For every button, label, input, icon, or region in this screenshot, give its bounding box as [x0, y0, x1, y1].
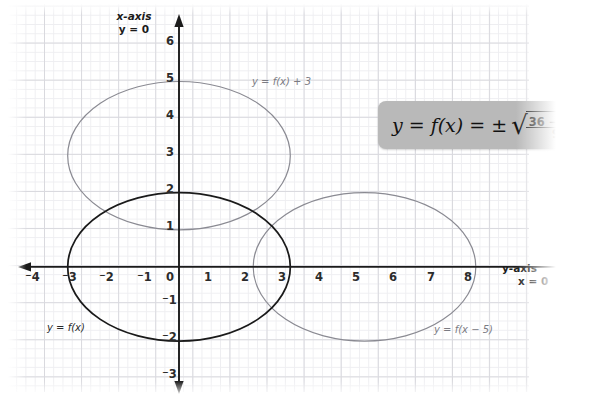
page-edge-fade-left: [0, 0, 26, 407]
x-tick-label: 3: [278, 270, 286, 284]
x-tick-label: −2: [99, 270, 114, 284]
y-tick-label: 4: [166, 108, 174, 122]
x-tick-label: −3: [62, 270, 77, 284]
graph-figure: x-axis y = 0 y-axis x = 0 −y = f(x)4 −3 …: [0, 0, 611, 407]
y-tick-label: −1: [162, 293, 177, 307]
y-tick-label: −3: [162, 367, 177, 381]
x-tick-label: 7: [427, 270, 435, 284]
y-tick-label: 6: [166, 34, 174, 48]
y-tick-label: 1: [166, 219, 174, 233]
page-edge-fade-right: [516, 0, 611, 407]
x-tick-label: −y = f(x)4: [25, 270, 40, 284]
x-tick-label: 8: [464, 270, 472, 284]
curve-label-f-of-x-plus-3: y = f(x) + 3: [252, 76, 311, 87]
curve-label-f-of-x-minus-5: y = f(x − 5): [434, 324, 493, 335]
y-tick-label: 5: [166, 71, 174, 85]
x-tick-label: 0: [166, 270, 174, 284]
x-tick-label: −1: [137, 270, 152, 284]
x-tick-label: 4: [315, 270, 323, 284]
y-tick-label: −2: [162, 330, 177, 344]
x-axis-name-line2: y = 0: [98, 23, 170, 36]
x-tick-label: 2: [241, 270, 249, 284]
curve-label-f-of-x: y = f(x): [47, 322, 85, 333]
formula-lhs: y = f(x) = ±: [392, 114, 507, 136]
y-tick-label: 2: [166, 182, 174, 196]
y-tick-label: 3: [166, 145, 174, 159]
x-tick-label: 1: [204, 270, 212, 284]
x-tick-label: 6: [389, 270, 397, 284]
x-tick-label: 5: [352, 270, 360, 284]
